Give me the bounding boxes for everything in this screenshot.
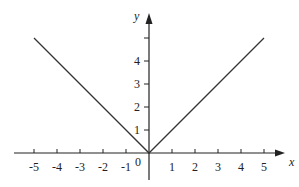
y-tick-label: 1 — [134, 123, 140, 137]
x-tick-label: -3 — [75, 160, 85, 174]
x-tick-label: 5 — [261, 160, 267, 174]
abs-value-graph: -5-4-3-2-11234512340xy — [0, 0, 299, 187]
x-tick-label: -4 — [52, 160, 62, 174]
x-tick-label: 3 — [215, 160, 221, 174]
x-axis-label: x — [288, 155, 295, 169]
y-tick-label: 2 — [134, 100, 140, 114]
x-tick-label: -2 — [98, 160, 108, 174]
x-tick-label: -1 — [121, 160, 131, 174]
y-tick-label: 4 — [134, 54, 140, 68]
x-axis-arrow-icon — [275, 150, 285, 157]
y-tick-label: 3 — [134, 77, 140, 91]
x-tick-label: 4 — [238, 160, 244, 174]
y-axis-arrow-icon — [146, 13, 153, 24]
chart-container: -5-4-3-2-11234512340xy — [0, 0, 299, 187]
x-tick-label: 2 — [192, 160, 198, 174]
y-axis-label: y — [133, 9, 140, 23]
axes — [14, 13, 285, 180]
origin-label: 0 — [135, 155, 141, 169]
x-tick-label: 1 — [169, 160, 175, 174]
x-tick-label: -5 — [29, 160, 39, 174]
labels: -5-4-3-2-11234512340xy — [29, 9, 295, 174]
